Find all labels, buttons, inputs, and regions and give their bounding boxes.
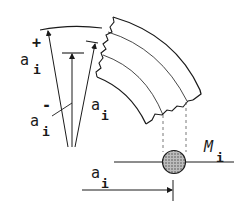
- outer-radius-arc: [40, 26, 102, 30]
- diagram-canvas: a + i a - i a i M i a i: [0, 0, 245, 210]
- radial-rays: [48, 31, 95, 147]
- segment-broken-edge-top: [96, 17, 114, 77]
- ray-a-plus: [48, 31, 68, 147]
- label-a-mid: a i: [91, 96, 109, 123]
- mass-subscript: i: [216, 150, 224, 165]
- a-minus-subscript: i: [42, 124, 50, 139]
- a-plus-subscript: i: [33, 62, 41, 77]
- a-minus-base: a: [30, 112, 39, 130]
- a-minus-superscript: -: [42, 96, 51, 114]
- segment-outer-edge: [113, 17, 201, 100]
- a-axis-base: a: [91, 164, 100, 182]
- a-mid-base: a: [91, 96, 100, 114]
- label-a-axis: a i: [91, 164, 109, 191]
- projection-lines: [163, 102, 186, 152]
- label-a-minus: a - i: [30, 96, 51, 139]
- label-a-plus: a + i: [20, 34, 41, 77]
- mass-base: M: [203, 138, 214, 156]
- label-mass: M i: [203, 138, 224, 165]
- a-plus-superscript: +: [32, 34, 41, 52]
- curved-segment: [96, 17, 201, 124]
- point-mass: [163, 151, 186, 174]
- a-mid-subscript: i: [101, 108, 109, 123]
- a-axis-subscript: i: [101, 176, 109, 191]
- a-plus-base: a: [20, 51, 29, 69]
- mid-radius-tick: [86, 41, 98, 43]
